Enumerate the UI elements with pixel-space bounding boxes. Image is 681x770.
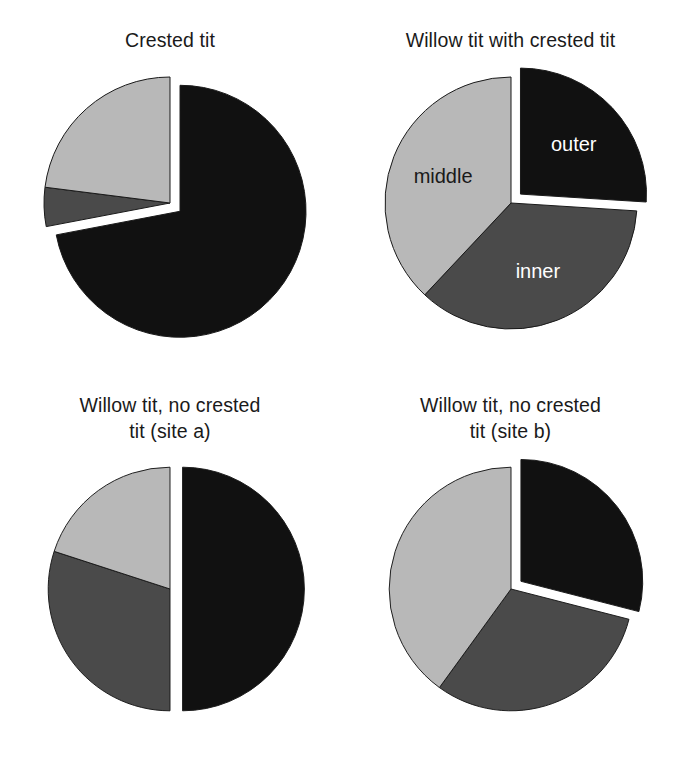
panel-title-willow-with-crested: Willow tit with crested tit [406, 0, 616, 53]
panel-title-crested-tit: Crested tit [125, 0, 215, 53]
pie-chart-willow-no-crested-site-a [25, 444, 315, 734]
pie-chart-crested-tit [20, 53, 320, 353]
pie-wrap-crested-tit [0, 53, 340, 380]
pie-chart-willow-with-crested: outerinnermiddle [361, 53, 661, 353]
pie-wrap-willow-with-crested: outerinnermiddle [340, 53, 681, 380]
pie-slice-middle [45, 77, 170, 203]
panel-title-willow-no-crested-site-b: Willow tit, no crested tit (site b) [420, 380, 601, 444]
panel-crested-tit: Crested tit [0, 0, 340, 380]
pie-slice-label-inner: inner [515, 260, 560, 282]
pie-slice-label-middle: middle [413, 165, 472, 187]
pie-slice-outer [520, 459, 642, 611]
panel-willow-no-crested-site-a: Willow tit, no crested tit (site a) [0, 380, 340, 770]
pie-wrap-willow-no-crested-site-a [0, 444, 340, 770]
pie-wrap-willow-no-crested-site-b [340, 444, 681, 770]
panel-willow-with-crested: Willow tit with crested tit outerinnermi… [340, 0, 681, 380]
pie-slice-label-outer: outer [550, 133, 596, 155]
pie-slice-outer [183, 467, 305, 711]
pie-chart-figure: Crested tit Willow tit with crested tit … [0, 0, 681, 770]
pie-chart-willow-no-crested-site-b [366, 444, 656, 734]
panel-title-willow-no-crested-site-a: Willow tit, no crested tit (site a) [79, 380, 260, 444]
panel-willow-no-crested-site-b: Willow tit, no crested tit (site b) [340, 380, 681, 770]
